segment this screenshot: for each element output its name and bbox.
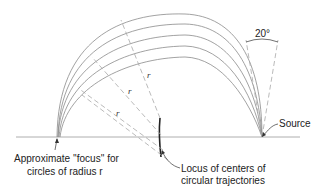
focus-arrowhead-icon — [55, 138, 59, 143]
angle-label: 20° — [255, 28, 270, 39]
locus-label-line1: Locus of centers of — [181, 163, 266, 174]
angle-ray-right — [262, 40, 278, 137]
radius-label-3: r — [116, 108, 120, 118]
angle-indicator: 20° — [246, 28, 278, 137]
radius-line-4 — [82, 95, 168, 160]
radius-line-1 — [121, 20, 160, 118]
radius-line-3 — [78, 88, 163, 150]
source-pointer — [263, 124, 278, 136]
focus-label-line2: circles of radius r — [27, 166, 103, 177]
radius-label-1: r — [147, 70, 151, 80]
locus-of-centers — [159, 118, 161, 157]
radius-lines — [78, 20, 168, 160]
radius-line-2 — [92, 57, 161, 135]
focus-label-line1: Approximate ''focus'' for — [14, 153, 120, 164]
locus-pointer — [162, 151, 180, 168]
locus-label-line2: circular trajectories — [181, 175, 265, 186]
locus-arrowhead-icon — [161, 150, 165, 155]
angle-arc — [246, 39, 278, 42]
radius-label-2: r — [128, 86, 132, 96]
trajectory-diagram: r r r r 20° Source Approximate ''focus''… — [0, 0, 320, 194]
source-label: Source — [279, 118, 311, 129]
trajectory-arc-4 — [59, 46, 262, 137]
